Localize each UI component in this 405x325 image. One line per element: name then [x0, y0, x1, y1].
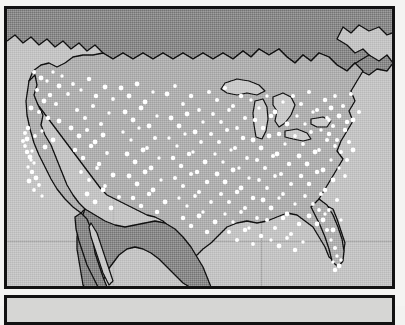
map-data-point [135, 182, 140, 187]
map-data-point [183, 132, 186, 135]
map-data-point [93, 200, 98, 205]
map-data-point [295, 114, 298, 117]
map-data-point [351, 148, 356, 153]
map-data-point [345, 120, 349, 124]
map-data-point [165, 92, 170, 97]
map-data-point [101, 133, 106, 138]
map-data-point [235, 190, 239, 194]
map-data-point [277, 196, 280, 199]
map-data-point [317, 208, 321, 212]
map-data-point [337, 166, 340, 169]
map-data-point [29, 106, 34, 111]
map-data-point [57, 119, 62, 124]
map-data-point [37, 110, 41, 114]
map-data-point [241, 136, 245, 140]
map-data-point [51, 70, 54, 73]
map-data-point [269, 114, 273, 118]
map-data-point [231, 220, 234, 223]
map-data-point [263, 166, 267, 170]
map-data-point [69, 126, 74, 131]
map-data-point [239, 94, 243, 98]
map-data-point [285, 212, 290, 217]
map-panel [4, 6, 395, 289]
map-data-point [325, 228, 329, 232]
map-data-point [25, 137, 30, 142]
map-data-point [151, 90, 154, 93]
map-data-point [233, 146, 237, 150]
map-data-point [277, 244, 282, 249]
map-data-point [209, 132, 213, 136]
map-data-point [337, 114, 342, 119]
map-data-point [285, 236, 289, 240]
map-data-point [291, 94, 295, 98]
map-data-point [87, 77, 91, 81]
map-data-point [293, 134, 297, 138]
map-data-point [155, 114, 158, 117]
map-data-point [123, 110, 128, 115]
map-data-point [40, 129, 43, 132]
map-data-point [333, 94, 337, 98]
map-data-point [94, 94, 98, 98]
map-data-point [327, 132, 331, 136]
map-data-point [121, 130, 124, 133]
map-data-point [255, 216, 259, 220]
map-data-point [71, 82, 75, 86]
map-data-point [43, 145, 48, 150]
map-data-point [175, 144, 178, 147]
map-data-point [177, 196, 180, 199]
map-data-point [87, 178, 91, 182]
map-data-point [249, 98, 252, 101]
map-data-point [135, 82, 140, 87]
map-data-point [265, 94, 268, 97]
map-data-point [277, 132, 281, 136]
map-data-point [273, 174, 277, 178]
map-data-point [261, 126, 265, 130]
map-data-point [48, 93, 52, 97]
map-data-point [189, 172, 193, 176]
map-data-point [205, 180, 209, 184]
map-data-point [30, 170, 34, 174]
map-data-point [323, 212, 326, 215]
map-data-point [139, 204, 143, 208]
map-data-point [319, 192, 323, 196]
map-data-point [75, 108, 79, 112]
map-data-point [27, 179, 32, 184]
map-data-point [299, 102, 303, 106]
secondary-halftone-grain [7, 298, 392, 322]
map-data-point [357, 110, 361, 114]
map-data-point [169, 116, 174, 121]
map-data-point [301, 142, 305, 146]
map-data-point [181, 184, 185, 188]
map-data-point [42, 99, 47, 104]
map-data-point [185, 112, 190, 117]
map-data-point [319, 128, 322, 131]
map-data-point [265, 186, 269, 190]
map-data-point [303, 194, 307, 198]
map-data-point [333, 268, 337, 272]
map-data-point [207, 90, 211, 94]
map-data-point [347, 140, 351, 144]
map-data-point [81, 156, 85, 160]
map-data-point [307, 182, 311, 186]
map-data-point [225, 128, 229, 132]
map-data-point [219, 120, 223, 124]
map-data-point [213, 220, 218, 225]
map-data-point [243, 206, 247, 210]
map-data-point [283, 142, 286, 145]
map-data-point [83, 116, 87, 120]
map-data-point [173, 84, 177, 88]
map-data-point [157, 156, 160, 159]
map-data-point [141, 148, 146, 153]
map-data-point [323, 188, 327, 192]
map-data-point [339, 218, 342, 221]
map-data-point [223, 212, 226, 215]
map-data-point [131, 196, 135, 200]
map-data-point [341, 104, 345, 108]
map-data-point [29, 158, 32, 161]
map-data-point [25, 150, 29, 154]
map-data-point [201, 210, 204, 213]
map-data-point [97, 162, 101, 166]
map-data-point [171, 156, 175, 160]
secondary-panel [4, 295, 395, 325]
map-data-point [35, 88, 39, 92]
